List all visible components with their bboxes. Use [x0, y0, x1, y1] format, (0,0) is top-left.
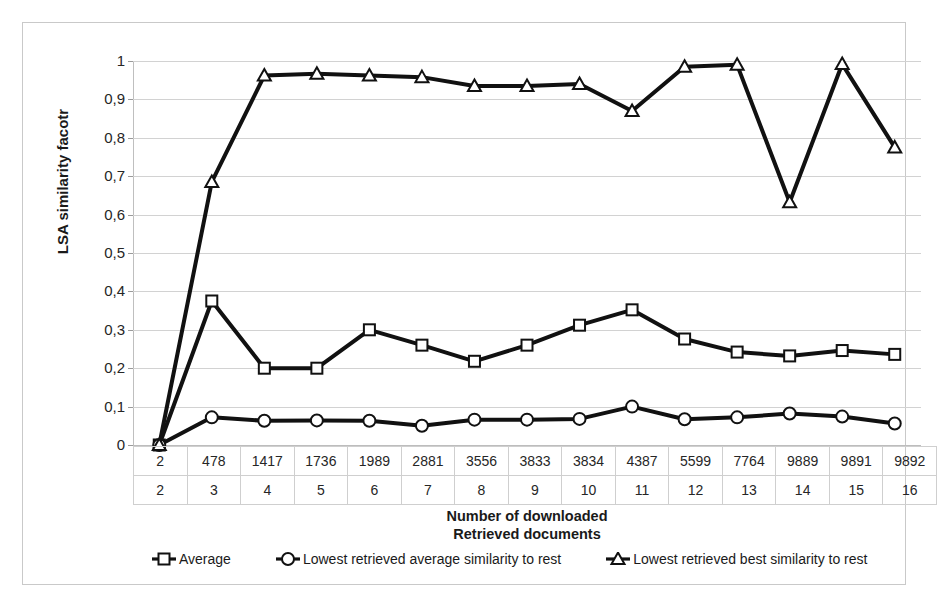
y-axis-tick-label: 0,7: [61, 168, 125, 183]
data-point-circle: [521, 414, 533, 426]
data-point-square: [679, 334, 690, 345]
category-cell-index: 2: [134, 476, 188, 505]
legend-item-square[interactable]: Average: [151, 551, 231, 567]
data-point-circle: [282, 553, 294, 565]
legend-label: Lowest retrieved average similarity to r…: [303, 551, 561, 567]
data-point-circle: [258, 415, 270, 427]
category-cell-documents: 2: [134, 447, 188, 476]
category-cell-index: 14: [776, 476, 830, 505]
legend-item-circle[interactable]: Lowest retrieved average similarity to r…: [275, 551, 561, 567]
series-triangle: [153, 58, 901, 450]
category-cell-index: 8: [455, 476, 509, 505]
legend-marker-circle-icon: [275, 552, 301, 566]
category-cell-documents: 1417: [241, 447, 295, 476]
data-point-circle: [731, 411, 743, 423]
y-axis-tick-label: 0,4: [61, 283, 125, 298]
data-point-square: [311, 363, 322, 374]
table-row-documents: 2478141717361989288135563833383443875599…: [134, 447, 937, 476]
category-cell-index: 15: [829, 476, 883, 505]
y-axis-tick-label: 0,9: [61, 91, 125, 106]
category-cell-documents: 5599: [669, 447, 723, 476]
category-cell-documents: 3556: [455, 447, 509, 476]
data-point-square: [784, 350, 795, 361]
category-cell-index: 6: [348, 476, 402, 505]
legend-label: Lowest retrieved best similarity to rest: [633, 551, 867, 567]
y-axis-tick-label: 0,5: [61, 245, 125, 260]
data-point-circle: [416, 420, 428, 432]
data-point-circle: [311, 414, 323, 426]
data-series-layer: [133, 61, 921, 445]
category-cell-index: 7: [401, 476, 455, 505]
data-point-square: [416, 340, 427, 351]
data-point-square: [522, 340, 533, 351]
category-cell-documents: 1736: [294, 447, 348, 476]
data-point-square: [574, 320, 585, 331]
x-axis-title-line2: Retrieved documents: [133, 525, 921, 543]
data-point-circle: [574, 413, 586, 425]
data-point-circle: [679, 413, 691, 425]
x-axis-title-line1: Number of downloaded: [133, 507, 921, 525]
y-axis-labels: 00,10,20,30,40,50,60,70,80,91: [59, 61, 125, 445]
data-point-square: [732, 347, 743, 358]
chart-frame: LSA similarity facotr 00,10,20,30,40,50,…: [22, 22, 906, 585]
category-cell-index: 5: [294, 476, 348, 505]
y-axis-tick-label: 0: [61, 437, 125, 452]
y-axis-tick-label: 0,6: [61, 207, 125, 222]
category-cell-index: 4: [241, 476, 295, 505]
category-cell-documents: 3833: [508, 447, 562, 476]
category-cell-index: 10: [562, 476, 616, 505]
legend-item-triangle[interactable]: Lowest retrieved best similarity to rest: [605, 551, 867, 567]
y-axis-tick-label: 1: [61, 53, 125, 68]
y-axis-tick-label: 0,1: [61, 399, 125, 414]
data-point-circle: [363, 415, 375, 427]
y-axis-tick-label: 0,3: [61, 322, 125, 337]
series-line: [159, 64, 894, 445]
series-circle: [153, 401, 900, 451]
data-point-square: [259, 363, 270, 374]
table-row-index: 2345678910111213141516: [134, 476, 937, 505]
category-cell-documents: 1989: [348, 447, 402, 476]
category-cell-index: 16: [883, 476, 937, 505]
legend-label: Average: [179, 551, 231, 567]
category-axis-table: 2478141717361989288135563833383443875599…: [133, 446, 937, 505]
x-axis-title: Number of downloaded Retrieved documents: [133, 507, 921, 543]
data-point-circle: [784, 408, 796, 420]
data-point-square: [889, 349, 900, 360]
category-cell-documents: 9889: [776, 447, 830, 476]
category-cell-documents: 3834: [562, 447, 616, 476]
category-cell-documents: 2881: [401, 447, 455, 476]
data-point-triangle: [783, 196, 796, 208]
y-axis-tick-label: 0,2: [61, 360, 125, 375]
data-point-square: [206, 296, 217, 307]
data-point-square: [627, 304, 638, 315]
category-cell-index: 3: [187, 476, 241, 505]
y-axis-tick-label: 0,8: [61, 130, 125, 145]
data-point-circle: [626, 401, 638, 413]
category-cell-documents: 9892: [883, 447, 937, 476]
category-cell-documents: 7764: [722, 447, 776, 476]
chart-legend: AverageLowest retrieved average similari…: [83, 551, 883, 567]
data-point-square: [469, 356, 480, 367]
legend-marker-triangle-icon: [605, 552, 631, 566]
data-point-square: [837, 345, 848, 356]
data-point-square: [159, 554, 170, 565]
category-cell-documents: 9891: [829, 447, 883, 476]
category-cell-documents: 4387: [615, 447, 669, 476]
data-point-circle: [836, 411, 848, 423]
data-point-circle: [206, 411, 218, 423]
data-point-circle: [889, 417, 901, 429]
category-cell-index: 11: [615, 476, 669, 505]
legend-marker-square-icon: [151, 552, 177, 566]
category-cell-index: 9: [508, 476, 562, 505]
data-point-square: [364, 324, 375, 335]
data-point-circle: [468, 414, 480, 426]
category-cell-documents: 478: [187, 447, 241, 476]
category-cell-index: 13: [722, 476, 776, 505]
data-point-triangle: [836, 58, 849, 70]
category-cell-index: 12: [669, 476, 723, 505]
